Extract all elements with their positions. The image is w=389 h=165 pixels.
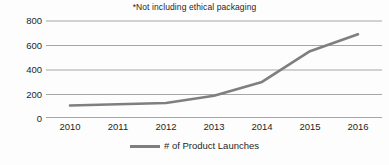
y-tick-label: 0 (0, 114, 42, 124)
line-chart-figure: *Not including ethical packaging 800 600… (0, 0, 389, 165)
legend-label: # of Product Launches (164, 140, 259, 152)
plot-svg (46, 20, 382, 118)
x-tick-label: 2015 (299, 121, 320, 133)
y-axis-tick-labels: 800 600 400 200 0 (0, 20, 42, 118)
chart-title: *Not including ethical packaging (0, 1, 389, 13)
gridlines (46, 21, 382, 118)
legend-line-swatch (130, 145, 160, 148)
x-tick-label: 2011 (108, 121, 128, 133)
y-tick-label: 200 (0, 90, 42, 100)
x-tick-label: 2014 (251, 121, 272, 133)
x-tick-label: 2013 (203, 121, 224, 133)
x-axis-tick-labels: 2010 2011 2012 2013 2014 2015 2016 (46, 121, 382, 135)
y-tick-label: 400 (0, 65, 42, 75)
x-tick-label: 2010 (59, 121, 80, 133)
x-tick-label: 2012 (155, 121, 176, 133)
x-tick-label: 2016 (347, 121, 368, 133)
y-tick-label: 600 (0, 41, 42, 51)
plot-area (46, 20, 382, 118)
y-tick-label: 800 (0, 16, 42, 26)
chart-legend: # of Product Launches (0, 140, 389, 152)
